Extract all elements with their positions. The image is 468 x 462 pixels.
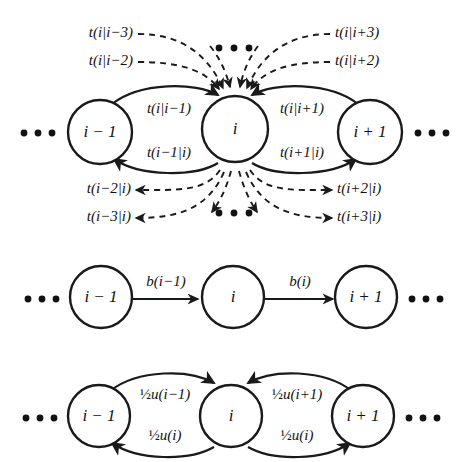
edge-label-right-top-rest: u(i+1) xyxy=(283,386,322,403)
edge-label-left-bottom-rest: u(i) xyxy=(160,427,182,444)
ellipsis-left-panel3 xyxy=(23,415,58,422)
outer-label-in-left-3: t(i|i−3) xyxy=(89,24,133,41)
fraction-half: ½ xyxy=(281,427,292,443)
dashed-edge-in-right-2 xyxy=(251,62,330,89)
dashed-edge-in-top-right xyxy=(240,46,258,87)
panel-symmetric-rates: i − 1 i i + 1 ½u(i−1) ½u(i) ½u(i+1) ½u(i… xyxy=(23,373,441,457)
edge-label-left-bottom: ½u(i) xyxy=(149,427,182,444)
edge-label-left-top: ½u(i−1) xyxy=(140,386,191,403)
edge-label-in-from-left: t(i|i−1) xyxy=(147,100,191,117)
ellipsis-right-panel1 xyxy=(415,130,450,137)
node-right-label: i + 1 xyxy=(346,406,379,425)
figure-canvas: i − 1 i i + 1 t(i|i−1) t(i−1|i) t(i|i+1)… xyxy=(0,0,468,462)
outer-label-out-right-2: t(i+2|i) xyxy=(337,180,381,197)
outer-label-in-right-3: t(i|i+3) xyxy=(335,24,379,41)
edge-label-right-top: ½u(i+1) xyxy=(272,386,323,403)
ellipsis-top-panel1 xyxy=(216,45,253,52)
node-center-label: i xyxy=(233,119,238,138)
outer-label-out-left-2: t(i−2|i) xyxy=(87,180,131,197)
solid-edge-out-to-right xyxy=(252,159,356,173)
fraction-half: ½ xyxy=(272,386,283,402)
fraction-half: ½ xyxy=(149,427,160,443)
node-left-label: i − 1 xyxy=(82,406,115,425)
edge-label-right-bottom: ½u(i) xyxy=(281,427,314,444)
node-left-label: i − 1 xyxy=(84,287,117,306)
ellipsis-right-panel2 xyxy=(409,296,444,303)
outer-label-out-left-3: t(i−3|i) xyxy=(87,208,131,225)
outer-label-in-left-2: t(i|i−2) xyxy=(89,52,133,69)
fraction-half: ½ xyxy=(140,386,151,402)
edge-label-out-to-left: t(i−1|i) xyxy=(147,144,191,161)
edge-label-left-to-center: b(i−1) xyxy=(146,273,185,290)
outer-label-out-right-3: t(i+3|i) xyxy=(337,208,381,225)
dashed-inbound-edges xyxy=(138,34,330,89)
ellipsis-left-panel1 xyxy=(21,130,56,137)
curved-edge-left-bottom xyxy=(112,443,214,457)
edge-label-center-to-right: b(i) xyxy=(289,273,311,290)
curved-edge-right-bottom xyxy=(248,443,350,457)
edge-label-in-from-right: t(i|i+1) xyxy=(280,100,324,117)
node-right-label: i + 1 xyxy=(349,287,382,306)
ellipsis-bottom-panel1 xyxy=(216,210,253,217)
dashed-edge-in-right-3 xyxy=(247,34,330,88)
ellipsis-right-panel3 xyxy=(406,415,441,422)
ellipsis-left-panel2 xyxy=(25,296,60,303)
node-center-label: i xyxy=(231,287,236,306)
dashed-edge-in-left-2 xyxy=(138,62,219,89)
node-left-label: i − 1 xyxy=(83,122,116,141)
panel-transition-rates: i − 1 i i + 1 t(i|i−1) t(i−1|i) t(i|i+1)… xyxy=(21,24,450,225)
node-center-label: i xyxy=(229,406,234,425)
edge-label-out-to-right: t(i+1|i) xyxy=(280,144,324,161)
edge-label-left-top-rest: u(i−1) xyxy=(151,386,190,403)
solid-edge-out-to-left xyxy=(114,159,218,173)
edge-label-right-bottom-rest: u(i) xyxy=(292,427,314,444)
panel-birth-rates: i − 1 i i + 1 b(i−1) b(i) xyxy=(25,266,444,328)
dashed-edge-in-left-3 xyxy=(138,34,223,88)
state-diagram-svg: i − 1 i i + 1 t(i|i−1) t(i−1|i) t(i|i+1)… xyxy=(0,0,468,462)
node-right-label: i + 1 xyxy=(353,122,386,141)
outer-label-in-right-2: t(i|i+2) xyxy=(335,52,379,69)
